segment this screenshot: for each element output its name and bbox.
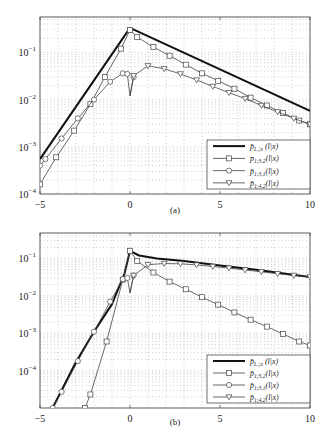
y-tick-label: 10−1 — [19, 251, 37, 264]
legend: p̄L₁|x (l|x)p̄1;3,2(l|x)p̄1;3,1(l|x)p̄1;… — [207, 355, 310, 403]
series-p-L1-given-x — [40, 28, 310, 159]
legend: p̄L₁|x (l|x)p̄1;3,2(l|x)p̄1;3,1(l|x)p̄1;… — [207, 140, 310, 189]
x-tick-label: 5 — [218, 413, 223, 424]
svg-text:p̄L₁|x (l|x): p̄L₁|x (l|x) — [249, 142, 279, 152]
x-tick-label: 5 — [218, 199, 223, 210]
y-tick-label: 10−3 — [19, 140, 37, 153]
x-tick-label: 10 — [305, 413, 315, 424]
figure-caption: (b) — [170, 417, 181, 427]
y-tick-label: 10−3 — [19, 326, 37, 339]
series-p-1-4-2 — [130, 64, 313, 127]
y-tick-label: 10−2 — [19, 289, 37, 302]
chart-panel-b: −5051010−110−210−310−4p̄L₁|x (l|x)p̄1;3,… — [19, 233, 315, 427]
y-tick-label: 10−2 — [19, 93, 37, 106]
y-tick-label: 10−4 — [19, 364, 37, 377]
y-tick-label: 10−1 — [19, 45, 37, 58]
x-tick-label: 10 — [305, 199, 315, 210]
figure: −5051010−110−210−310−4p̄L₁|x (l|x)p̄1;3,… — [0, 0, 331, 447]
chart-panel-a: −5051010−110−210−310−4p̄L₁|x (l|x)p̄1;3,… — [19, 17, 315, 215]
figure-caption: (a) — [170, 205, 180, 215]
x-tick-label: −5 — [35, 413, 46, 424]
x-tick-label: −5 — [35, 199, 46, 210]
x-tick-label: 0 — [128, 413, 133, 424]
x-tick-label: 0 — [128, 199, 133, 210]
svg-text:p̄L₁|x (l|x): p̄L₁|x (l|x) — [249, 357, 279, 367]
